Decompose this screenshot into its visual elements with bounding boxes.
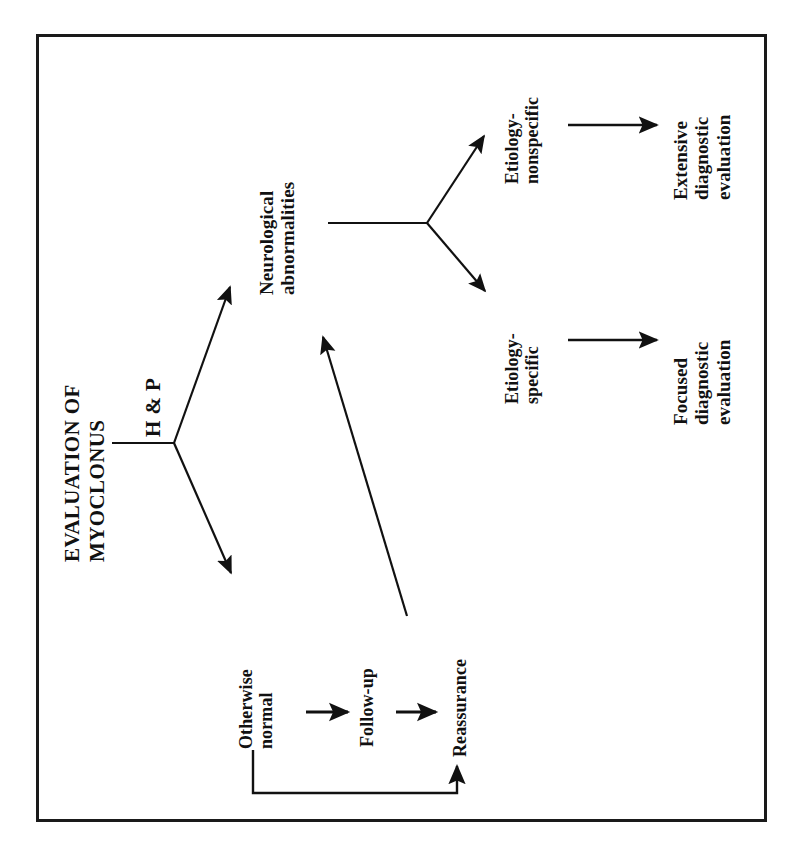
figure-page: EVALUATION OF MYOCLONUS H & P Neurologic…: [0, 0, 797, 857]
node-etiology-specific-line-1: Etiology-: [502, 333, 522, 404]
node-reassurance[interactable]: Reassurance: [450, 659, 470, 757]
node-extensive-line-3: evaluation: [713, 115, 734, 200]
node-otherwise-normal-line-2: normal: [256, 669, 276, 749]
node-focused-diagnostic-evaluation[interactable]: Focused diagnostic evaluation: [670, 340, 734, 425]
node-extensive-diagnostic-evaluation[interactable]: Extensive diagnostic evaluation: [670, 115, 734, 200]
node-reassurance-label: Reassurance: [450, 659, 470, 757]
page-title-line-2: MYOCLONUS: [85, 384, 110, 562]
node-etiology-nonspecific-line-2: nonspecific: [522, 97, 542, 184]
node-neuro-line-2: abnormalities: [277, 182, 298, 295]
node-hp-label: H & P: [142, 378, 166, 437]
node-focused-line-3: evaluation: [713, 340, 734, 425]
node-extensive-line-1: Extensive: [670, 115, 691, 200]
node-focused-line-1: Focused: [670, 340, 691, 425]
node-otherwise-normal[interactable]: Otherwise normal: [236, 669, 276, 749]
node-focused-line-2: diagnostic: [691, 340, 712, 425]
node-hp[interactable]: H & P: [142, 378, 166, 437]
node-followup[interactable]: Follow-up: [357, 668, 377, 747]
node-etiology-specific[interactable]: Etiology- specific: [502, 333, 542, 404]
node-extensive-line-2: diagnostic: [691, 115, 712, 200]
page-title-line-1: EVALUATION OF: [60, 384, 85, 562]
node-otherwise-normal-line-1: Otherwise: [236, 669, 256, 749]
page-title: EVALUATION OF MYOCLONUS: [60, 384, 110, 562]
node-neurological-abnormalities[interactable]: Neurological abnormalities: [256, 182, 299, 295]
node-etiology-nonspecific[interactable]: Etiology- nonspecific: [502, 97, 542, 184]
node-followup-label: Follow-up: [357, 668, 377, 747]
node-etiology-nonspecific-line-1: Etiology-: [502, 97, 522, 184]
node-etiology-specific-line-2: specific: [522, 333, 542, 404]
node-neuro-line-1: Neurological: [256, 182, 277, 295]
